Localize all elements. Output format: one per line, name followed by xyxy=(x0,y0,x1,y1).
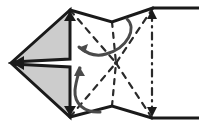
figure-canvas: Folding diagram Wireframe prism with gra… xyxy=(0,0,199,127)
folding-diagram-svg xyxy=(0,0,199,127)
center-vertex-dot xyxy=(114,61,118,65)
